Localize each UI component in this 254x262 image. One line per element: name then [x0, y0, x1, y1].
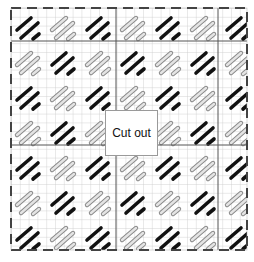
cutout-label: Cut out: [112, 126, 151, 140]
cutout-region: Cut out: [105, 110, 158, 156]
